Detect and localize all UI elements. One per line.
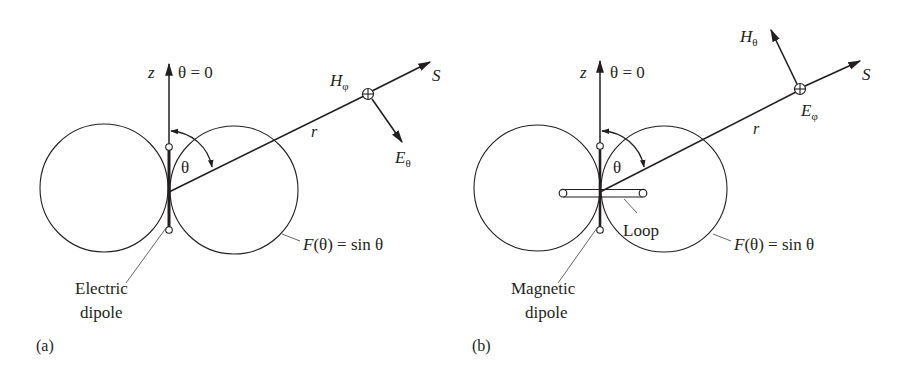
magnetic-label: Magnetic [511, 279, 576, 298]
theta-zero-label: θ = 0 [178, 63, 213, 82]
poynting-arrow [372, 62, 430, 91]
e-phi-label: Eφ [800, 101, 818, 122]
pattern-leader [282, 234, 300, 241]
right-lobe [170, 126, 298, 254]
electric-label: Electric [75, 279, 128, 298]
dipole-end-top [597, 143, 604, 150]
z-axis-label: z [579, 63, 587, 82]
panel-a-label: (a) [36, 337, 54, 355]
pattern-function-label: F(θ) = sin θ [302, 235, 383, 254]
loop-leader [624, 199, 637, 213]
h-theta-arrow [771, 30, 797, 84]
panel-b-labels: z θ = 0 θ r S Hθ Eφ Loop F(θ) = sin θ Ma… [472, 27, 871, 355]
left-lobe [474, 125, 600, 251]
h-theta-label: Hθ [739, 27, 758, 48]
e-theta-arrow [372, 99, 402, 142]
poynting-arrow [805, 61, 860, 86]
theta-label: θ [613, 158, 621, 177]
z-axis-label: z [147, 63, 155, 82]
dipole-end-bottom [166, 227, 173, 234]
r-label: r [311, 123, 318, 140]
theta-arc [602, 131, 644, 167]
left-lobe [40, 124, 168, 252]
theta-label: θ [181, 158, 189, 177]
s-label: S [432, 66, 441, 85]
panel-a-labels: z θ = 0 θ r S Hφ Eθ F(θ) = sin θ Electri… [36, 63, 441, 355]
dipole-radiation-figure: z θ = 0 θ r S Hφ Eθ F(θ) = sin θ Electri… [0, 0, 906, 374]
s-label: S [862, 65, 871, 84]
dipole-label: dipole [525, 303, 568, 322]
h-phi-label: Hφ [329, 71, 349, 92]
loop-label: Loop [623, 221, 659, 240]
e-theta-label: Eθ [394, 148, 411, 169]
dipole-label: dipole [80, 303, 123, 322]
dipole-end-bottom [597, 227, 604, 234]
pattern-function-label: F(θ) = sin θ [733, 235, 814, 254]
panel-b-label: (b) [472, 337, 491, 355]
r-label: r [753, 120, 760, 137]
e-phi-into-page-icon [795, 84, 806, 95]
h-phi-into-page-icon [363, 89, 374, 100]
dipole-end-top [166, 144, 173, 151]
theta-zero-label: θ = 0 [610, 63, 645, 82]
pattern-leader [713, 234, 731, 241]
radius-line [169, 96, 364, 192]
